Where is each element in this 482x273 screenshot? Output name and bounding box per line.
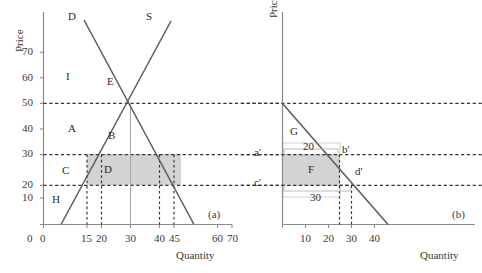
panel-b-region-label-G: G bbox=[290, 126, 298, 137]
panel-a-y-tick-70: 70 bbox=[22, 46, 33, 57]
panel-b-x-tick-40: 40 bbox=[369, 233, 380, 244]
panel-a-demand-curve-label: D bbox=[68, 11, 76, 22]
panel-b-x-tick-10: 10 bbox=[300, 233, 311, 244]
panel-a-x-tick-20: 20 bbox=[96, 233, 107, 244]
panel-a-region-label-A: A bbox=[68, 123, 76, 134]
panel-a-x-tick-40: 40 bbox=[154, 233, 165, 244]
panel-b-point-label-a-prime: a' bbox=[254, 147, 261, 158]
panel-a-x-axis-title: Quantity bbox=[176, 250, 215, 261]
panel-a-region-label-C: C bbox=[62, 165, 69, 176]
figure-canvas bbox=[0, 0, 482, 273]
panel-b-y-axis-title: Price bbox=[268, 0, 279, 18]
panel-b-x-axis-title: Quantity bbox=[420, 250, 459, 261]
panel-a-region-label-H: H bbox=[52, 194, 60, 205]
panel-b-point-label-d-prime: d' bbox=[355, 166, 362, 177]
panel-a-y-tick-50: 50 bbox=[22, 97, 33, 108]
panel-a-region-label-D: D bbox=[104, 164, 112, 175]
panel-b-x-tick-30: 30 bbox=[346, 233, 357, 244]
panel-a-x-tick-15: 15 bbox=[81, 233, 92, 244]
panel-b-x-tick-20: 20 bbox=[323, 233, 334, 244]
panel-a-x-tick-0: 0 bbox=[40, 233, 46, 244]
supply-demand-figure: Price Quantity 0 10 20 30 40 50 60 70 0 … bbox=[0, 0, 482, 273]
panel-a-y-tick-30: 30 bbox=[22, 148, 33, 159]
panel-a-y-tick-0: 0 bbox=[27, 233, 33, 244]
panel-a-x-tick-60: 60 bbox=[212, 233, 223, 244]
panel-b-point-label-c-prime: c' bbox=[254, 177, 261, 188]
panel-a-demand-curve bbox=[84, 20, 194, 225]
panel-a-shaded-region bbox=[87, 154, 181, 185]
panel-b-span-label-20: 20 bbox=[303, 141, 314, 152]
panel-a-y-tick-40: 40 bbox=[22, 123, 33, 134]
panel-b-span-label-30: 30 bbox=[310, 192, 321, 203]
panel-a-region-label-B: B bbox=[108, 130, 115, 141]
panel-a-y-tick-60: 60 bbox=[22, 72, 33, 83]
panel-a-region-label-I: I bbox=[66, 71, 70, 82]
panel-a-x-tick-30: 30 bbox=[125, 233, 136, 244]
panel-a-supply-curve bbox=[61, 21, 171, 225]
panel-b-caption: (b) bbox=[452, 209, 465, 220]
panel-a-y-tick-10: 10 bbox=[22, 192, 33, 203]
panel-a-equilibrium-label: E bbox=[107, 76, 114, 87]
panel-a-caption: (a) bbox=[208, 209, 220, 220]
panel-a-x-tick-70: 70 bbox=[227, 233, 238, 244]
panel-a-supply-curve-label: S bbox=[146, 11, 152, 22]
panel-a-y-tick-20: 20 bbox=[22, 179, 33, 190]
panel-b-point-label-b-prime: b' bbox=[342, 144, 349, 155]
panel-a-x-tick-45: 45 bbox=[169, 233, 180, 244]
panel-b-region-label-F: F bbox=[308, 164, 314, 175]
